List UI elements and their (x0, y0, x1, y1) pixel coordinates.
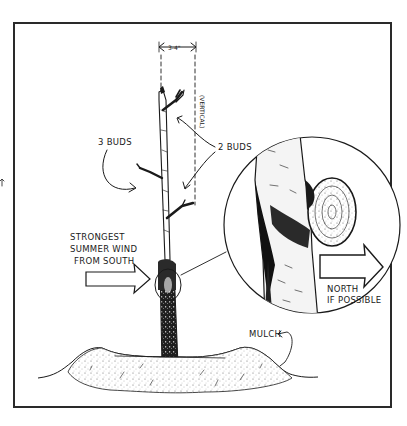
detail-circle: NORTH IF POSSIBLE (224, 135, 400, 320)
wind-arrow-shape (86, 264, 150, 293)
bud-arrows: 3 BUDS 2 BUDS (98, 116, 252, 192)
wind-label-line1: STRONGEST (70, 232, 125, 242)
spacing-dimension: 3-4" (159, 42, 196, 52)
mulch-label: MULCH (249, 329, 281, 339)
wind-label-line3: FROM SOUTH (74, 256, 134, 266)
wind-label-line2: SUMMER WIND (70, 244, 138, 254)
wind-arrow: STRONGEST SUMMER WIND FROM SOUTH (70, 232, 150, 293)
north-label-line2: IF POSSIBLE (327, 295, 381, 305)
stray-mark (0, 179, 4, 186)
north-label-line1: NORTH (327, 284, 358, 294)
vertical-label: (VERTICAL) (199, 95, 206, 128)
spacing-label: 3-4" (168, 44, 181, 51)
tree-pruning-diagram: 3-4" (VERTICAL) 3 BUDS 2 BUDS (0, 0, 407, 426)
detail-callout (181, 252, 226, 275)
tree-trunk (137, 86, 193, 365)
three-buds-label: 3 BUDS (98, 137, 132, 147)
two-buds-label: 2 BUDS (218, 142, 252, 152)
